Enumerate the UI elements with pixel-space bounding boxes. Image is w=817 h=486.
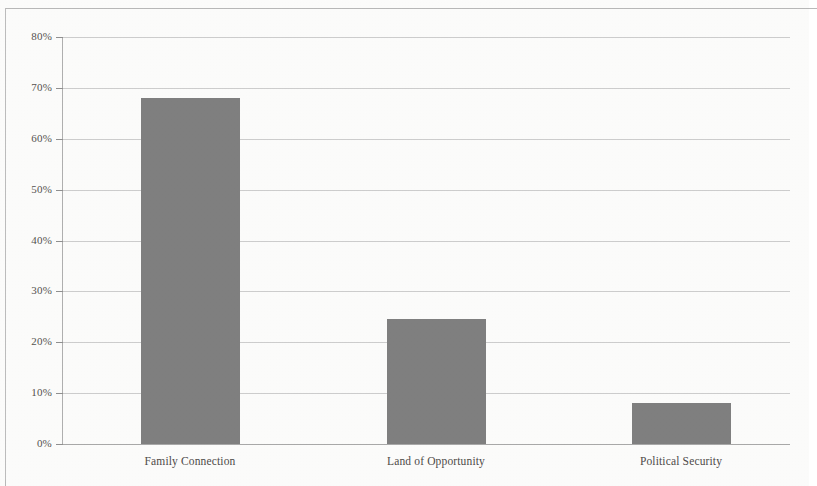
y-axis-tick-labels: 0%10%20%30%40%50%60%70%80% (0, 0, 52, 486)
y-tick-mark (56, 190, 63, 191)
x-axis-label-2: Political Security (571, 455, 791, 468)
gridline-0 (62, 444, 790, 445)
y-axis-label: 80% (2, 31, 52, 42)
gridline-70 (62, 88, 790, 89)
bar-family-connection (141, 98, 240, 444)
y-axis-label: 30% (2, 285, 52, 296)
y-axis-label: 70% (2, 82, 52, 93)
gridline-80 (62, 37, 790, 38)
y-axis-label: 50% (2, 184, 52, 195)
y-tick-mark (56, 241, 63, 242)
x-axis-label-0: Family Connection (80, 455, 300, 468)
y-tick-mark (56, 139, 63, 140)
y-tick-mark (56, 342, 63, 343)
x-axis-label-1: Land of Opportunity (326, 455, 546, 468)
y-tick-mark (56, 291, 63, 292)
y-tick-mark (56, 88, 63, 89)
plot-area (62, 37, 790, 444)
bar-political-security (632, 403, 731, 444)
y-tick-mark (56, 393, 63, 394)
y-axis-label: 40% (2, 235, 52, 246)
y-axis-label: 60% (2, 133, 52, 144)
y-tick-mark (56, 444, 63, 445)
y-axis-label: 10% (2, 387, 52, 398)
bar-land-of-opportunity (387, 319, 486, 444)
y-axis-label: 0% (2, 438, 52, 449)
y-tick-mark (56, 37, 63, 38)
y-axis-label: 20% (2, 336, 52, 347)
